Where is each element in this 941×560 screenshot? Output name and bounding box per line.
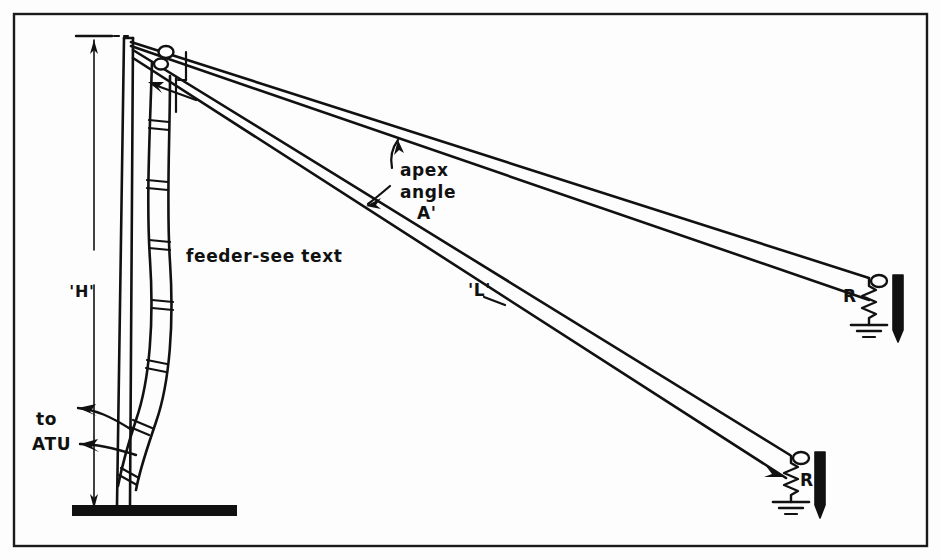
upper-resistor-label: R bbox=[843, 286, 857, 306]
apex-angle-symbol-label: A' bbox=[417, 203, 437, 223]
lower-support-stake bbox=[815, 452, 825, 518]
apex-angle-label-line2: angle bbox=[400, 182, 456, 202]
atu-label-line2: ATU bbox=[32, 434, 71, 454]
ground-plane-bar bbox=[72, 505, 237, 516]
height-dimension-label: 'H' bbox=[69, 282, 95, 301]
apex-angle-label-line1: apex bbox=[400, 160, 449, 180]
insulator-lower-icon bbox=[154, 59, 168, 70]
lower-resistor-label: R bbox=[800, 470, 814, 490]
insulator-upper-icon bbox=[159, 46, 174, 58]
feeder-label: feeder-see text bbox=[186, 246, 342, 266]
antenna-diagram: 'H' feeder-see text apex angle A' 'L' to… bbox=[0, 0, 941, 560]
lower-termination-insulator-icon bbox=[793, 452, 809, 464]
figure-page: 'H' feeder-see text apex angle A' 'L' to… bbox=[0, 0, 941, 560]
upper-termination-insulator-icon bbox=[871, 275, 887, 287]
upper-support-stake bbox=[893, 275, 903, 342]
wire-length-label: 'L' bbox=[468, 280, 491, 300]
atu-label-line1: to bbox=[36, 409, 57, 429]
